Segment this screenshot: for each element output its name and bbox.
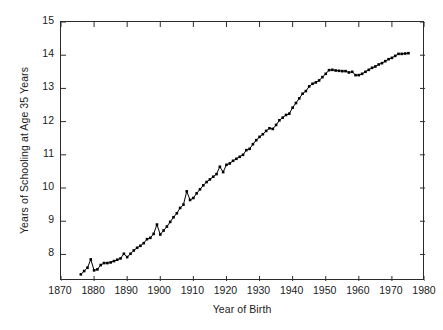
data-point bbox=[374, 65, 377, 68]
data-point bbox=[166, 225, 169, 228]
data-point bbox=[119, 257, 122, 260]
chart-canvas bbox=[61, 22, 425, 281]
data-point bbox=[308, 85, 311, 88]
data-point bbox=[172, 216, 175, 219]
data-point bbox=[371, 67, 374, 70]
data-point bbox=[397, 53, 400, 56]
data-point bbox=[281, 116, 284, 119]
data-point bbox=[384, 60, 387, 63]
data-point bbox=[152, 233, 155, 236]
data-point bbox=[139, 245, 142, 248]
y-tick-label: 13 bbox=[14, 81, 54, 92]
data-point bbox=[348, 71, 351, 74]
data-point bbox=[156, 223, 159, 226]
x-tick-label: 1980 bbox=[401, 285, 443, 296]
data-point bbox=[262, 133, 265, 136]
plot-area bbox=[60, 21, 424, 280]
data-point bbox=[377, 63, 380, 66]
data-point bbox=[351, 71, 354, 74]
data-point bbox=[391, 57, 394, 60]
data-line bbox=[81, 53, 409, 274]
y-tick-label: 14 bbox=[14, 48, 54, 59]
data-point bbox=[106, 262, 109, 265]
data-point bbox=[407, 52, 410, 55]
data-point bbox=[195, 192, 198, 195]
data-point bbox=[149, 237, 152, 240]
data-point bbox=[159, 233, 162, 236]
data-point bbox=[242, 154, 245, 157]
data-point bbox=[212, 175, 215, 178]
data-point bbox=[258, 136, 261, 139]
data-point bbox=[146, 238, 149, 241]
data-point bbox=[295, 102, 298, 105]
data-point bbox=[252, 143, 255, 146]
data-point bbox=[268, 127, 271, 130]
data-point bbox=[404, 52, 407, 55]
data-point bbox=[185, 190, 188, 193]
data-point bbox=[225, 163, 228, 166]
data-point bbox=[228, 162, 231, 165]
data-point bbox=[202, 184, 205, 187]
data-point bbox=[192, 197, 195, 200]
data-point bbox=[80, 273, 83, 276]
y-tick-label: 9 bbox=[14, 214, 54, 225]
data-point bbox=[338, 70, 341, 73]
data-point bbox=[99, 264, 102, 267]
axis-ticks bbox=[61, 22, 425, 281]
data-point bbox=[113, 260, 116, 263]
data-point bbox=[334, 69, 337, 72]
data-point bbox=[367, 69, 370, 72]
data-point bbox=[169, 221, 172, 224]
data-point bbox=[123, 252, 126, 255]
y-tick-label: 10 bbox=[14, 181, 54, 192]
data-point bbox=[298, 97, 301, 100]
y-tick-label: 8 bbox=[14, 247, 54, 258]
data-point bbox=[199, 188, 202, 191]
data-point bbox=[86, 266, 89, 269]
data-point bbox=[235, 158, 238, 161]
data-point bbox=[394, 55, 397, 58]
data-point bbox=[222, 171, 225, 174]
data-point bbox=[278, 119, 281, 122]
data-point bbox=[354, 74, 357, 77]
data-point bbox=[179, 207, 182, 210]
data-point bbox=[133, 249, 136, 252]
x-axis-title: Year of Birth bbox=[60, 303, 424, 315]
data-point bbox=[291, 106, 294, 109]
data-point bbox=[93, 269, 96, 272]
data-point bbox=[89, 258, 92, 261]
data-point bbox=[321, 76, 324, 79]
data-point bbox=[315, 81, 318, 84]
data-point bbox=[245, 149, 248, 152]
data-point bbox=[288, 112, 291, 115]
data-point bbox=[103, 262, 106, 265]
data-point bbox=[162, 229, 165, 232]
data-point bbox=[324, 73, 327, 76]
data-point bbox=[341, 70, 344, 73]
y-tick-label: 11 bbox=[14, 148, 54, 159]
data-markers bbox=[80, 52, 410, 276]
chart-figure: Years of Schooling at Age 35 Years 89101… bbox=[0, 0, 443, 330]
y-tick-label: 15 bbox=[14, 15, 54, 26]
data-point bbox=[205, 181, 208, 184]
data-point bbox=[311, 82, 314, 85]
data-point bbox=[215, 173, 218, 176]
data-point bbox=[209, 178, 212, 181]
data-point bbox=[182, 203, 185, 206]
data-point bbox=[271, 128, 274, 131]
data-point bbox=[364, 71, 367, 74]
data-point bbox=[358, 74, 361, 77]
data-point bbox=[83, 270, 86, 273]
data-point bbox=[109, 261, 112, 264]
data-point bbox=[285, 114, 288, 117]
data-point bbox=[129, 252, 132, 255]
y-tick-label: 12 bbox=[14, 115, 54, 126]
data-point bbox=[232, 160, 235, 163]
data-point bbox=[328, 69, 331, 72]
data-point bbox=[255, 139, 258, 142]
data-point bbox=[301, 92, 304, 95]
data-point bbox=[265, 130, 268, 133]
data-point bbox=[116, 258, 119, 261]
data-point bbox=[401, 53, 404, 56]
data-point bbox=[248, 148, 251, 151]
